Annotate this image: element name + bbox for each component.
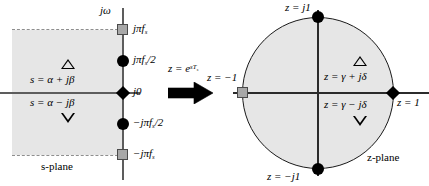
s-plane-triangle-up-icon xyxy=(61,59,75,69)
s-plane-label-neg-jpifs-over-2: −jπfs/2 xyxy=(133,117,163,130)
z-plane-lower-point-label: z = γ − jδ xyxy=(324,99,367,110)
s-plane-upper-point-label: s = α + jβ xyxy=(30,74,74,85)
z-plane-marker-j1 xyxy=(312,11,324,23)
s-plane-axis-label-jomega: jω xyxy=(100,5,111,16)
s-plane-marker-neg-jpifs xyxy=(117,149,128,160)
s-plane-label-jpifs: jπfs xyxy=(133,23,147,36)
z-plane-panel: z = j1 z = −1 z = 1 z = −j1 z = γ + jδ z… xyxy=(205,0,429,186)
z-plane-imaginary-axis xyxy=(317,10,319,176)
z-plane-label-neg-j1: z = −j1 xyxy=(267,171,300,182)
s-plane-marker-neg-jpifs-over-2 xyxy=(117,118,129,130)
s-plane-shade-bottom-border xyxy=(12,155,123,156)
z-plane-label-neg1: z = −1 xyxy=(207,72,237,83)
s-plane-shade-top-border xyxy=(12,29,123,30)
s-plane-marker-jpifs xyxy=(117,24,128,35)
z-plane-marker-neg-j1 xyxy=(312,163,324,175)
figure-canvas: jω jπfs jπfs/2 j0 −jπfs/2 −jπfs s = α + … xyxy=(0,0,429,186)
s-plane-label-jpifs-over-2: jπfs/2 xyxy=(133,54,156,67)
z-plane-triangle-up-icon xyxy=(353,56,367,66)
s-plane-triangle-down-icon xyxy=(61,113,75,123)
z-plane-caption: z-plane xyxy=(367,152,399,163)
z-plane-label-pos1: z = 1 xyxy=(397,97,420,108)
s-plane-label-neg-jpifs: −jπfs xyxy=(133,148,155,161)
s-plane-caption: s-plane xyxy=(41,161,73,172)
s-plane-lower-point-label: s = α − jβ xyxy=(30,97,74,108)
z-plane-upper-point-label: z = γ + jδ xyxy=(324,71,367,82)
transform-equation-label: z = esTs xyxy=(168,62,198,74)
z-plane-label-j1: z = j1 xyxy=(285,2,311,13)
s-plane-marker-jpifs-over-2 xyxy=(117,55,129,67)
z-plane-triangle-down-icon xyxy=(353,116,367,126)
z-plane-marker-neg1 xyxy=(237,87,248,98)
s-plane-label-j0: j0 xyxy=(133,86,142,97)
